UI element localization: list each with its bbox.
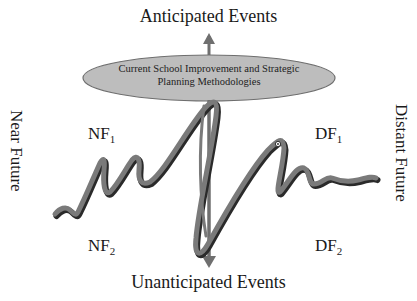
methodologies-label: Current School Improvement and Strategic… (83, 62, 335, 88)
quadrant-nf2-label: NF2 (88, 237, 115, 260)
diagram-graphics (0, 0, 417, 301)
methodologies-label-line1: Current School Improvement and Strategic (83, 62, 335, 75)
near-future-label: Near Future (7, 110, 25, 192)
unanticipated-events-label: Unanticipated Events (0, 272, 417, 292)
up-arrow-icon (203, 33, 215, 44)
quadrant-df1-label: DF1 (315, 125, 342, 148)
diagram-canvas: Anticipated Events Unanticipated Events … (0, 0, 417, 301)
methodologies-label-line2: Planning Methodologies (83, 75, 335, 88)
anticipated-events-label: Anticipated Events (0, 6, 417, 26)
quadrant-df2-label: DF2 (315, 237, 342, 260)
quadrant-nf1-label: NF1 (88, 125, 115, 148)
distant-future-label: Distant Future (392, 104, 410, 202)
down-arrow-icon (202, 256, 216, 268)
